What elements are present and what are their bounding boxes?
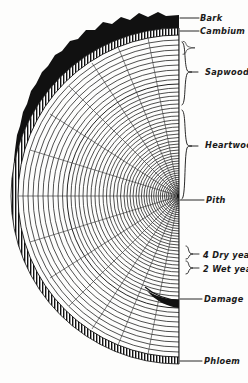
- tree-ring-diagram-page: Bark Cambium Sapwood Heartwood Pith 4 Dr…: [0, 0, 248, 383]
- brace-wet-years: [186, 261, 199, 274]
- label-pith: Pith: [206, 196, 226, 204]
- label-bark: Bark: [200, 14, 222, 22]
- label-sapwood: Sapwood: [205, 68, 248, 76]
- brace-heartwood: [182, 110, 198, 199]
- label-damage: Damage: [204, 295, 244, 303]
- label-dry-years: 4 Dry years: [203, 251, 248, 259]
- tree-cross-section-figure: [0, 0, 248, 383]
- label-phloem: Phloem: [204, 357, 240, 365]
- label-wet-years: 2 Wet years: [203, 265, 248, 273]
- label-cambium: Cambium: [200, 27, 245, 35]
- brace-dry-years: [186, 246, 199, 259]
- label-heartwood: Heartwood: [205, 141, 248, 149]
- leader-lines: [180, 18, 204, 361]
- brace-sapwood: [182, 41, 198, 105]
